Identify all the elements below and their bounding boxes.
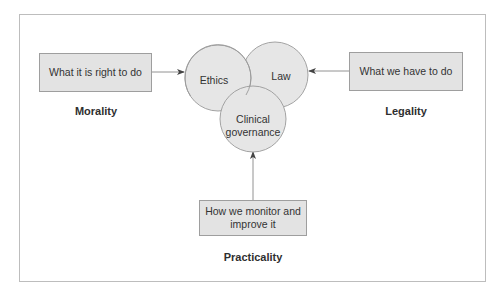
clinical-governance-label: Clinical governance: [226, 113, 281, 139]
morality-box: What it is right to do: [39, 53, 152, 92]
practicality-box-line2: improve it: [230, 218, 276, 231]
legality-box-text: What we have to do: [360, 65, 453, 78]
practicality-box: How we monitor and improve it: [199, 200, 307, 236]
law-label: Law: [271, 70, 290, 83]
legality-box: What we have to do: [349, 52, 463, 91]
clinical-governance-line2: governance: [226, 126, 281, 139]
legality-label: Legality: [385, 105, 427, 117]
morality-box-text: What it is right to do: [49, 66, 142, 79]
venn-diagram: [0, 0, 503, 294]
clinical-governance-line1: Clinical: [226, 113, 281, 126]
morality-label: Morality: [75, 105, 117, 117]
ethics-label: Ethics: [200, 74, 229, 87]
practicality-box-line1: How we monitor and: [205, 205, 301, 218]
practicality-label: Practicality: [224, 251, 283, 263]
